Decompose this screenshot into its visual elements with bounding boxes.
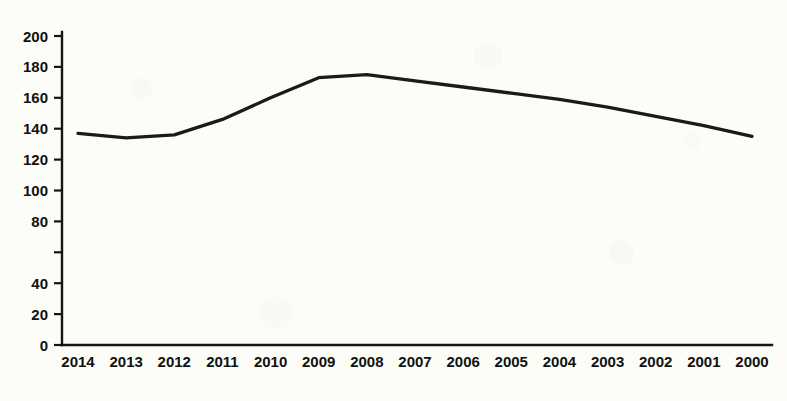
y-axis-tick-label: 80 bbox=[31, 213, 48, 230]
x-axis-tick-label: 2003 bbox=[591, 353, 624, 370]
x-axis-tick-label: 2002 bbox=[639, 353, 672, 370]
y-axis-tick-label: 20 bbox=[31, 306, 48, 323]
x-axis-tick-label: 2012 bbox=[158, 353, 191, 370]
x-axis-tick-label: 2013 bbox=[109, 353, 142, 370]
y-axis-tick-label: 200 bbox=[23, 28, 48, 45]
y-axis-tick-label: 180 bbox=[23, 58, 48, 75]
x-axis-tick-label: 2004 bbox=[543, 353, 577, 370]
line-chart: 0204080100120140160180200 20142013201220… bbox=[0, 0, 787, 401]
x-axis-tick-label: 2007 bbox=[398, 353, 431, 370]
x-axis-tick-label: 2000 bbox=[735, 353, 768, 370]
y-axis-tick-label: 40 bbox=[31, 275, 48, 292]
x-axis-tick-label: 2008 bbox=[350, 353, 383, 370]
x-axis-tick-label: 2010 bbox=[254, 353, 287, 370]
x-axis-tick-label: 2005 bbox=[495, 353, 528, 370]
chart-page: 0204080100120140160180200 20142013201220… bbox=[0, 0, 787, 401]
x-axis-tick-label: 2014 bbox=[61, 353, 95, 370]
data-series-line bbox=[78, 75, 752, 138]
y-axis-tick-label: 120 bbox=[23, 151, 48, 168]
x-axis-tick-label: 2011 bbox=[206, 353, 239, 370]
x-axis-tick-label: 2006 bbox=[446, 353, 479, 370]
x-axis-tick-label: 2009 bbox=[302, 353, 335, 370]
y-axis-tick-labels: 0204080100120140160180200 bbox=[23, 28, 48, 354]
x-axis-tick-label: 2001 bbox=[687, 353, 720, 370]
y-axis-tick-label: 100 bbox=[23, 182, 48, 199]
y-axis-tick-label: 140 bbox=[23, 120, 48, 137]
x-axis-tick-labels: 2014201320122011201020092008200720062005… bbox=[61, 353, 768, 370]
y-axis-tick-label: 160 bbox=[23, 89, 48, 106]
y-axis-tick-label: 0 bbox=[40, 337, 48, 354]
